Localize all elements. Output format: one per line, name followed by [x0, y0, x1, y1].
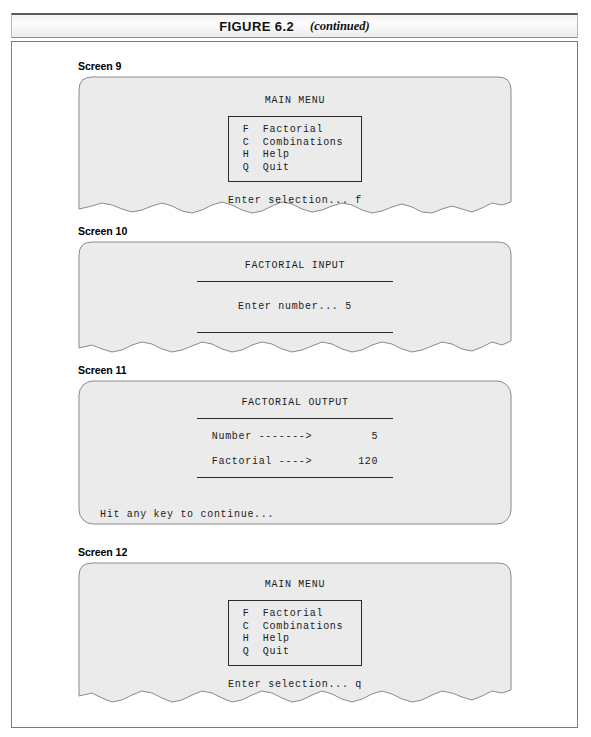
row-value-factorial: 120: [312, 456, 378, 467]
screen-label-11: Screen 11: [78, 364, 477, 376]
table-row: Number -------> 5: [212, 431, 379, 442]
menu-key-12-2: H: [243, 633, 250, 644]
menu-key-9-2: H: [243, 149, 250, 160]
menu-name-12-1: Combinations: [263, 621, 343, 632]
menu-name-9-3: Quit: [263, 162, 290, 173]
menu-name-9-1: Combinations: [263, 137, 343, 148]
menu-name-9-2: Help: [263, 149, 290, 160]
row-value-number: 5: [312, 431, 378, 442]
screen-block-10: Screen 10 FACTORIAL INPUT Enter number..…: [78, 225, 512, 359]
screen-title-10: FACTORIAL INPUT: [78, 259, 512, 273]
screen-block-12: Screen 12 MAIN MENU F Factorial C Combin…: [78, 546, 512, 708]
menu-name-12-2: Help: [263, 633, 290, 644]
screen-title-9: MAIN MENU: [78, 94, 512, 108]
crt-content-10: FACTORIAL INPUT Enter number... 5: [78, 241, 512, 333]
table-row: Factorial ----> 120: [212, 456, 379, 467]
screen-block-11: Screen 11 FACTORIAL OUTPUT Number ------…: [78, 364, 512, 525]
menu-key-9-0: F: [243, 124, 250, 135]
crt-content-12: MAIN MENU F Factorial C Combinations H H…: [78, 562, 512, 692]
crt-content-11: FACTORIAL OUTPUT Number -------> 5: [78, 380, 512, 522]
menu-item-combinations-9[interactable]: C Combinations: [243, 137, 344, 150]
screen-title-11: FACTORIAL OUTPUT: [78, 396, 512, 410]
menu-item-help-9[interactable]: H Help: [243, 149, 344, 162]
divider-bottom-10: [197, 332, 393, 333]
crt-screen-9: MAIN MENU F Factorial C Combinations H H…: [78, 76, 512, 220]
menu-box-9: F Factorial C Combinations H Help Q Quit: [228, 116, 363, 182]
menu-name-12-3: Quit: [263, 646, 290, 657]
menu-name-9-0: Factorial: [263, 124, 323, 135]
row-spacer: [212, 442, 313, 456]
menu-key-12-1: C: [243, 621, 250, 632]
crt-screen-12: MAIN MENU F Factorial C Combinations H H…: [78, 562, 512, 708]
menu-key-9-1: C: [243, 137, 250, 148]
screen-label-9: Screen 9: [78, 60, 477, 72]
menu-item-quit-12[interactable]: Q Quit: [243, 646, 344, 659]
output-table-11: Number -------> 5 Factorial ----> 120: [212, 431, 379, 467]
row-spacer-value: [312, 442, 378, 456]
menu-key-12-3: Q: [243, 646, 250, 657]
menu-item-combinations-12[interactable]: C Combinations: [243, 621, 344, 634]
figure-page: FIGURE 6.2 (continued) Screen 9 MAIN MEN…: [0, 0, 591, 737]
menu-box-wrapper-9: F Factorial C Combinations H Help Q Quit: [78, 116, 512, 182]
menu-name-12-0: Factorial: [263, 608, 323, 619]
menu-item-factorial-9[interactable]: F Factorial: [243, 124, 344, 137]
menu-item-factorial-12[interactable]: F Factorial: [243, 608, 344, 621]
prompt-9[interactable]: Enter selection... f: [78, 194, 512, 208]
screen-label-12: Screen 12: [78, 546, 477, 558]
menu-item-help-12[interactable]: H Help: [243, 633, 344, 646]
screens-container: Screen 9 MAIN MENU F Factorial C Combina…: [0, 41, 591, 728]
screen-title-12: MAIN MENU: [78, 578, 512, 592]
figure-label: FIGURE 6.2: [219, 19, 294, 34]
screen-label-10: Screen 10: [78, 225, 477, 237]
crt-screen-10: FACTORIAL INPUT Enter number... 5: [78, 241, 512, 359]
menu-box-12: F Factorial C Combinations H Help Q Quit: [228, 600, 363, 666]
menu-key-9-3: Q: [243, 162, 250, 173]
prompt-12[interactable]: Enter selection... q: [78, 678, 512, 692]
table-row: [212, 442, 379, 456]
crt-content-9: MAIN MENU F Factorial C Combinations H H…: [78, 76, 512, 208]
figure-caption-bar: FIGURE 6.2 (continued): [11, 13, 578, 38]
menu-key-12-0: F: [243, 608, 250, 619]
menu-box-wrapper-12: F Factorial C Combinations H Help Q Quit: [78, 600, 512, 666]
row-label-number: Number ------->: [212, 431, 313, 442]
crt-screen-11: FACTORIAL OUTPUT Number -------> 5: [78, 380, 512, 525]
prompt-10[interactable]: Enter number... 5: [78, 300, 512, 314]
footer-prompt-11[interactable]: Hit any key to continue...: [78, 508, 512, 522]
menu-item-quit-9[interactable]: Q Quit: [243, 162, 344, 175]
row-label-factorial: Factorial ---->: [212, 456, 313, 467]
screen-block-9: Screen 9 MAIN MENU F Factorial C Combina…: [78, 60, 512, 220]
figure-continued-label: (continued): [310, 19, 370, 34]
